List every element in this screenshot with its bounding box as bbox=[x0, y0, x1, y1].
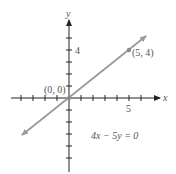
equation-label: 4x − 5y = 0 bbox=[91, 130, 138, 141]
point-label-5-4: (5, 4) bbox=[132, 47, 154, 59]
origin-label: (0, 0) bbox=[44, 84, 66, 96]
x-axis-label: x bbox=[162, 92, 168, 103]
x-tick-label-5: 5 bbox=[126, 103, 131, 114]
point-5-4 bbox=[127, 48, 131, 52]
point-origin bbox=[67, 96, 71, 100]
y-axis-label: y bbox=[65, 8, 71, 19]
graph: y x 4 5 (0, 0) (5, 4) 4x − 5y = 0 bbox=[0, 0, 176, 174]
y-tick-label-4: 4 bbox=[75, 45, 80, 56]
